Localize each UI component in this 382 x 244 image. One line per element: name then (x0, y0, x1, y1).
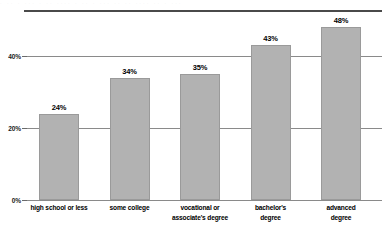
ytick-label-40: 40% (8, 53, 21, 60)
ytick-label-0: 0% (12, 197, 21, 204)
category-label-line: advanced (304, 203, 378, 213)
bar[interactable] (180, 74, 220, 200)
x-axis-baseline (24, 10, 382, 12)
bar[interactable] (321, 27, 361, 200)
category-label: high school or less (22, 203, 96, 213)
bar-value-label: 34% (110, 67, 150, 76)
ytick-label-20: 20% (8, 125, 21, 132)
bar-chart: · ·· · ··· · ·· ···· · ·· · ··· ·· ·· ··… (0, 0, 382, 244)
bar[interactable] (39, 114, 79, 200)
bar[interactable] (110, 78, 150, 200)
category-label: vocational orassociate's degree (163, 203, 237, 223)
category-label-line: high school or less (22, 203, 96, 213)
bar-value-label: 35% (180, 63, 220, 72)
category-label-line: degree (234, 213, 308, 223)
category-label-line: bachelor's (234, 203, 308, 213)
category-label-line: associate's degree (163, 213, 237, 223)
gridline-0 (26, 200, 382, 201)
category-label-line: some college (93, 203, 167, 213)
tick-mark-20 (22, 128, 27, 129)
category-label-line: vocational or (163, 203, 237, 213)
tick-mark-0 (22, 200, 27, 201)
category-label: bachelor'sdegree (234, 203, 308, 223)
bar-value-label: 48% (321, 16, 361, 25)
bar-value-label: 43% (251, 34, 291, 43)
category-label-line: degree (304, 213, 378, 223)
category-label: some college (93, 203, 167, 213)
cut-off-text-artifact: · ·· · ··· · ·· ···· · ·· · ··· ·· ·· ··… (0, 0, 382, 6)
bar-value-label: 24% (39, 103, 79, 112)
plot-area: 0% 20% 40% 24%34%35%43%48% (26, 10, 382, 200)
category-label: advanceddegree (304, 203, 378, 223)
bar[interactable] (251, 45, 291, 200)
tick-mark-40 (22, 56, 27, 57)
